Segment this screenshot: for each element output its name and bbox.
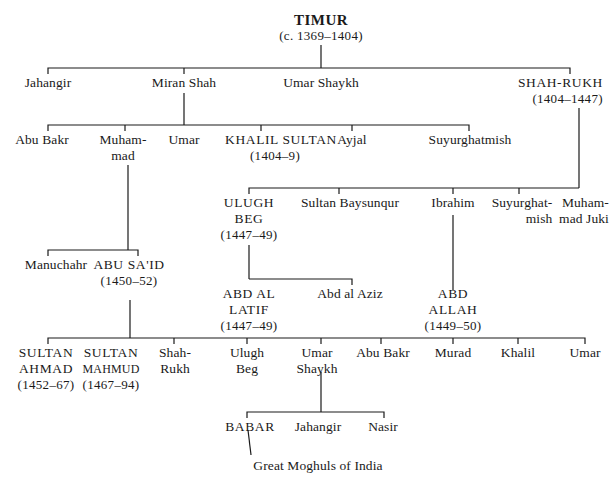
node-ulugh-beg-2: Ulugh Beg [230, 345, 264, 377]
node-name: Suyurghatmish [429, 132, 512, 148]
node-name: Umar [168, 132, 199, 148]
node-khalil: Khalil [501, 345, 535, 361]
node-babar: BABAR [225, 419, 275, 435]
node-name-line2: Rukh [159, 361, 191, 377]
timurid-family-tree: TIMUR (c. 1369–1404) Jahangir Miran Shah… [0, 0, 613, 480]
node-umar: Umar [168, 132, 199, 148]
node-name-line2: Beg [230, 361, 264, 377]
tree-connector-lines [0, 0, 613, 480]
node-dates: (1449–50) [425, 318, 482, 334]
node-abd-allah: ABD ALLAH (1449–50) [425, 286, 482, 334]
node-name: Abd al Aziz [317, 286, 383, 302]
node-name: TIMUR [279, 12, 363, 28]
node-abu-bakr-2: Abu Bakr [356, 345, 410, 361]
node-ibrahim: Ibrahim [431, 195, 474, 211]
node-ayjal: Ayjal [337, 132, 366, 148]
node-sultan-ahmad: SULTAN AHMAD (1452–67) [18, 345, 75, 393]
node-dates: (1452–67) [18, 377, 75, 393]
node-dates: (1447–49) [221, 227, 278, 243]
node-name: Khalil [501, 345, 535, 361]
node-name: Miran Shah [152, 75, 216, 91]
node-shah-rukh-2: Shah- Rukh [159, 345, 191, 377]
node-name: Umar [569, 345, 600, 361]
node-jahangir-2: Jahangir [295, 419, 342, 435]
node-name-line1: SULTAN [18, 345, 75, 361]
node-name-line1: ABD AL [221, 286, 278, 302]
node-name: ABU SA'ID [93, 257, 164, 273]
node-murad: Murad [435, 345, 472, 361]
node-name-line1: ULUGH [221, 195, 278, 211]
node-name: Ibrahim [431, 195, 474, 211]
node-dates: (1404–1447) [516, 91, 602, 107]
node-name-line1: ABD [425, 286, 482, 302]
node-dates: (1404–9) [213, 148, 337, 164]
node-ulugh-beg: ULUGH BEG (1447–49) [221, 195, 278, 243]
node-name-line1: Ulugh [230, 345, 264, 361]
node-name: Ayjal [337, 132, 366, 148]
node-name-line2: Shaykh [296, 361, 337, 377]
node-miran-shah: Miran Shah [152, 75, 216, 91]
node-suyurghatmish: Suyurghatmish [429, 132, 512, 148]
node-name-line1: SULTAN [82, 345, 139, 361]
node-dates: (1450–52) [93, 273, 164, 289]
node-name-line2: AHMAD [18, 361, 75, 377]
node-name: Jahangir [295, 419, 342, 435]
node-abu-bakr: Abu Bakr [15, 132, 69, 148]
node-name-line1: Shah- [159, 345, 191, 361]
node-muhammad: Muham- mad [99, 132, 146, 164]
node-name: BABAR [225, 419, 275, 435]
node-name-line2: mad [99, 148, 146, 164]
node-name: Murad [435, 345, 472, 361]
node-umar-shaykh: Umar Shaykh [283, 75, 359, 91]
node-jahangir: Jahangir [25, 75, 72, 91]
node-sultan-mahmud: SULTAN MAHMUD (1467–94) [82, 345, 139, 393]
node-umar-2: Umar [569, 345, 600, 361]
node-name: Abu Bakr [356, 345, 410, 361]
node-name-line2: ALLAH [425, 302, 482, 318]
node-name-line2: mad Juki [559, 211, 609, 227]
node-name: Great Moghuls of India [253, 458, 382, 474]
node-suyurghatmish-2: Suyurghat- mish [492, 195, 553, 227]
node-name: KHALIL SULTAN [225, 132, 337, 148]
node-name: Umar Shaykh [283, 75, 359, 91]
node-name: SHAH-RUKH [516, 75, 602, 91]
node-abu-said: ABU SA'ID (1450–52) [93, 257, 164, 289]
node-name: Sultan Baysunqur [301, 195, 399, 211]
node-name: Manuchahr [25, 257, 87, 273]
node-great-moghuls: Great Moghuls of India [253, 458, 382, 474]
node-name-line1: Muham- [559, 195, 609, 211]
node-name-line1: Umar [296, 345, 337, 361]
node-nasir: Nasir [368, 419, 398, 435]
node-dates: (1447–49) [221, 318, 278, 334]
node-name-line1: Muham- [99, 132, 146, 148]
node-sultan-baysunqur: Sultan Baysunqur [301, 195, 399, 211]
node-name-line2: mish [492, 211, 553, 227]
node-name: Abu Bakr [15, 132, 69, 148]
node-manuchahr: Manuchahr [25, 257, 87, 273]
node-name-line2: LATIF [221, 302, 278, 318]
node-name-line2: MAHMUD [82, 361, 139, 377]
node-name-line1: Suyurghat- [492, 195, 553, 211]
node-name-line2: BEG [221, 211, 278, 227]
node-dates: (1467–94) [82, 377, 139, 393]
node-muhammad-juki: Muham- mad Juki [559, 195, 609, 227]
node-abd-al-aziz: Abd al Aziz [317, 286, 383, 302]
node-abd-al-latif: ABD AL LATIF (1447–49) [221, 286, 278, 334]
node-dates: (c. 1369–1404) [279, 28, 363, 44]
node-name: Nasir [368, 419, 398, 435]
node-shah-rukh: SHAH-RUKH (1404–1447) [516, 75, 602, 107]
node-umar-shaykh-2: Umar Shaykh [296, 345, 337, 377]
node-name: Jahangir [25, 75, 72, 91]
node-khalil-sultan: KHALIL SULTAN (1404–9) [225, 132, 337, 164]
node-timur: TIMUR (c. 1369–1404) [279, 12, 363, 44]
